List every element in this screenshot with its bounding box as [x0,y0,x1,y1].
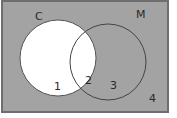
region-3-label: 3 [110,79,117,92]
region-4-label: 4 [149,92,156,105]
set-c-label: C [35,10,43,23]
venn-diagram: C M 1 2 3 4 [0,0,177,118]
region-2-label: 2 [85,74,92,87]
region-1-label: 1 [54,80,61,93]
set-m-label: M [136,8,146,21]
